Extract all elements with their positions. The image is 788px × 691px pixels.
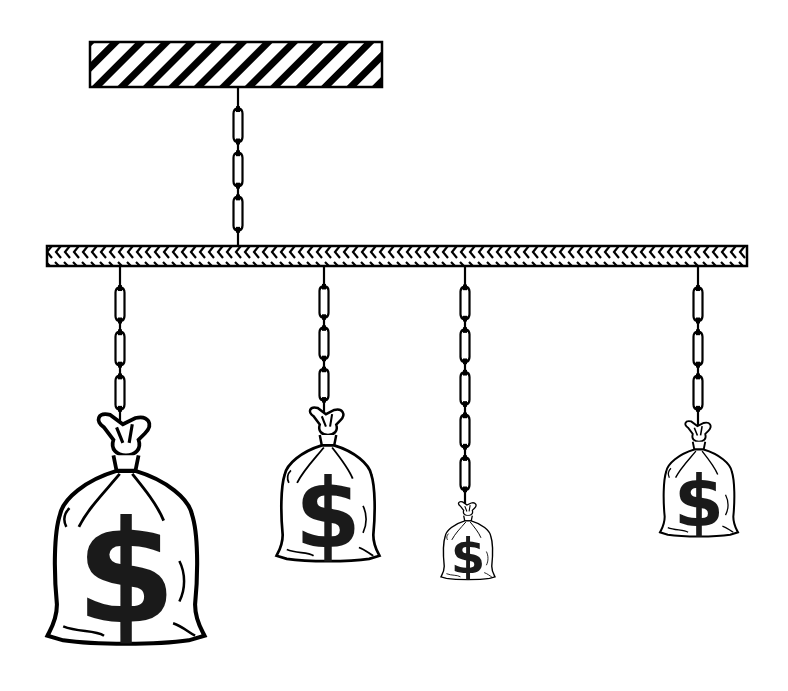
chain-link-icon	[461, 413, 470, 450]
balance-beam	[47, 246, 747, 266]
chain-link-icon	[116, 373, 125, 411]
chain-link-icon	[234, 150, 243, 188]
chain-link-icon	[694, 285, 703, 323]
money-bag-balance-diagram: Mobile balance with hanging money bags	[0, 0, 788, 691]
chain-link-icon	[320, 367, 329, 403]
hanging-bags-group	[48, 266, 739, 657]
chain-link-icon	[234, 194, 243, 232]
money-bag-icon	[277, 408, 380, 570]
main-chain	[234, 87, 243, 246]
bag-2-medium	[277, 266, 380, 570]
chain-link-icon	[461, 455, 470, 492]
diagram-canvas: $	[0, 0, 788, 691]
ceiling-mount	[90, 42, 382, 87]
chain-link-icon	[461, 284, 470, 321]
bag-4-medium-small	[660, 266, 738, 543]
chain-link-icon	[461, 370, 470, 407]
money-bag-icon	[660, 421, 738, 543]
chain-link-icon	[461, 327, 470, 364]
chain-link-icon	[320, 325, 329, 361]
bag-3-small	[441, 266, 495, 584]
money-bag-icon	[48, 414, 205, 657]
chain-link-icon	[320, 284, 329, 320]
chain-link-icon	[234, 106, 243, 144]
chain-link-icon	[116, 285, 125, 323]
money-bag-icon	[441, 502, 495, 585]
chain-link-icon	[116, 329, 125, 367]
bag-1-large	[48, 266, 205, 657]
chain-link-icon	[694, 329, 703, 367]
chain-link-icon	[694, 373, 703, 411]
